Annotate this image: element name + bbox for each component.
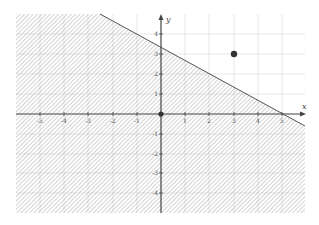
y-tick-label: -4 [152,189,158,196]
y-axis-label: y [165,15,171,24]
x-axis-arrow-icon [300,112,306,117]
inequality-graph: -5 -4 -3 -2 -1 1 2 3 4 5 4 3 2 1 -1 -2 -… [0,0,319,225]
x-axis-label: x [302,102,307,111]
y-tick-label: -3 [152,169,158,176]
x-tick-label: -3 [85,117,91,124]
y-tick-label: 1 [154,90,158,97]
y-tick-label: -2 [152,150,158,157]
x-tick-label: 1 [183,117,187,124]
x-tick-label: 3 [232,117,236,124]
x-tick-label: -2 [110,117,116,124]
plotted-point [231,51,237,57]
y-tick-label: 3 [154,50,158,57]
x-tick-label: -4 [61,117,67,124]
origin-point [158,111,163,116]
y-tick-label: 4 [154,30,158,37]
y-axis-arrow-icon [159,14,164,20]
x-tick-label: 4 [256,117,260,124]
x-tick-label: 5 [280,117,284,124]
x-tick-label: -1 [134,117,140,124]
y-tick-label: -1 [152,130,158,137]
x-tick-label: -5 [37,117,43,124]
x-tick-label: 2 [207,117,211,124]
y-tick-label: 2 [154,70,158,77]
